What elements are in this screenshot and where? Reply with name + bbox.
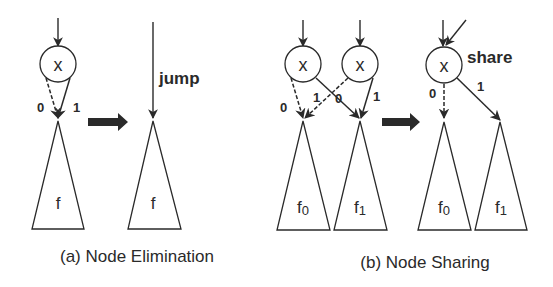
panel-b-after: x share 0 1 f0 f1 <box>418 20 527 230</box>
right-edge-1-solid <box>361 78 373 118</box>
edge-1-solid <box>58 78 70 118</box>
panel-a-after: jump f <box>128 22 200 229</box>
panel-a-node-elimination: x 0 1 f jump f (a) Node Elimination <box>32 18 214 266</box>
edge-1-label: 1 <box>73 100 80 115</box>
transform-arrow <box>382 113 420 131</box>
subtree-f1-subscript: 1 <box>359 203 366 218</box>
right-edge-1-label: 1 <box>373 89 380 104</box>
right-edge-0-label: 0 <box>335 91 342 106</box>
panel-b-caption: (b) Node Sharing <box>360 253 489 272</box>
panel-b-before: x x 0 1 0 1 f0 f1 <box>277 20 387 230</box>
edge-0-dashed <box>46 78 58 118</box>
subtree-label: f <box>151 194 156 213</box>
transform-arrow <box>88 113 128 131</box>
edge-1-label: 1 <box>477 79 484 94</box>
subtree-label: f <box>56 194 61 213</box>
edge-0-label: 0 <box>37 100 44 115</box>
subtree-f0-subscript: 0 <box>302 203 309 218</box>
node-right-label: x <box>356 55 365 75</box>
incoming-edge-diagonal-arrow <box>446 20 466 45</box>
edge-0-label: 0 <box>429 86 436 101</box>
node-label: x <box>54 55 63 75</box>
node-left-label: x <box>299 55 308 75</box>
subtree-f0-subscript: 0 <box>443 203 450 218</box>
panel-a-caption: (a) Node Elimination <box>60 247 214 266</box>
panel-a-before: x 0 1 f <box>32 18 84 229</box>
left-edge-1-label: 1 <box>313 90 320 105</box>
subtree-f1-subscript: 1 <box>500 203 507 218</box>
share-annotation: share <box>467 48 512 67</box>
shared-node-label: x <box>440 56 449 76</box>
jump-annotation: jump <box>158 69 200 88</box>
panel-b-node-sharing: x x 0 1 0 1 f0 f1 x share <box>277 20 527 272</box>
left-edge-0-label: 0 <box>280 100 287 115</box>
left-edge-0-dashed <box>291 78 303 118</box>
bdd-reduction-diagram: x 0 1 f jump f (a) Node Elimination x x <box>0 0 553 287</box>
